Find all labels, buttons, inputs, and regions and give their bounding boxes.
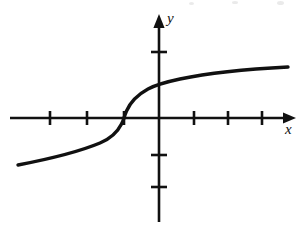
cube-root-curve [18,67,288,165]
graph-figure: y x [0,0,302,228]
x-axis-label: x [285,122,292,137]
x-axis-group [10,112,296,123]
y-axis-label: y [167,11,174,26]
coordinate-plot [0,0,302,228]
y-axis-arrowhead [153,14,164,28]
